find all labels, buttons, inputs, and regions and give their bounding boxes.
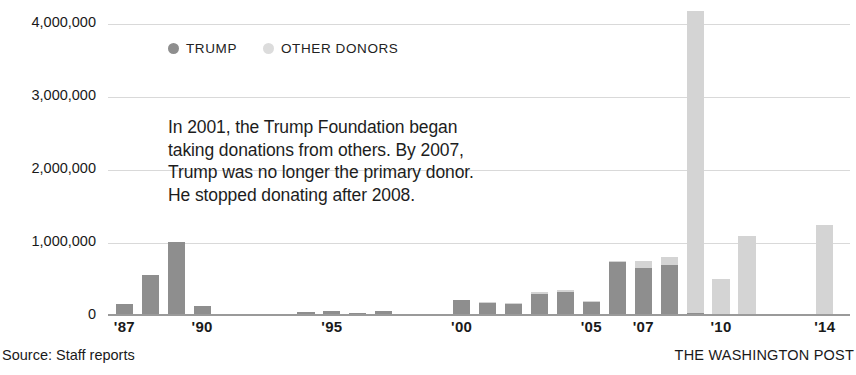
y-axis-tick-label: 1,000,000	[0, 233, 96, 249]
bar-segment-trump	[557, 292, 574, 316]
chart-container: 01,000,0002,000,0003,000,0004,000,000 '8…	[0, 0, 856, 375]
bar-segment-other-donors	[583, 301, 600, 302]
bar-segment-other-donors	[661, 257, 678, 265]
bar-segment-trump	[168, 242, 185, 316]
bar-segment-other-donors	[712, 279, 729, 316]
legend-item-trump: TRUMP	[168, 41, 237, 56]
dot-icon	[263, 43, 274, 54]
bar-segment-trump	[142, 275, 159, 316]
y-axis-tick-label: 4,000,000	[0, 14, 96, 30]
x-axis-baseline	[108, 314, 850, 316]
chart-footer: Source: Staff reports THE WASHINGTON POS…	[0, 347, 856, 375]
x-axis-tick-label: '87	[114, 318, 135, 335]
x-axis-tick-label: '14	[814, 318, 835, 335]
bar-segment-other-donors	[479, 302, 496, 303]
bar-segment-trump	[531, 294, 548, 316]
dot-icon	[168, 43, 179, 54]
chart-legend: TRUMP OTHER DONORS	[168, 41, 398, 56]
legend-label-trump: TRUMP	[186, 41, 237, 56]
x-axis-tick-label: '10	[710, 318, 731, 335]
legend-item-other-donors: OTHER DONORS	[263, 41, 398, 56]
bar-segment-trump	[609, 262, 626, 316]
bar-segment-trump	[661, 265, 678, 316]
x-axis-tick-label: '00	[451, 318, 472, 335]
bar-segment-other-donors	[505, 303, 522, 304]
gridline	[108, 24, 850, 25]
y-axis-tick-label: 3,000,000	[0, 87, 96, 103]
y-axis-tick-label: 2,000,000	[0, 160, 96, 176]
bar-segment-other-donors	[557, 290, 574, 292]
source-note: Source: Staff reports	[2, 347, 135, 363]
x-axis-tick-label: '07	[633, 318, 654, 335]
legend-label-other-donors: OTHER DONORS	[281, 41, 398, 56]
bar-segment-other-donors	[531, 292, 548, 294]
bar-segment-other-donors	[687, 11, 704, 313]
bar-segment-trump	[635, 268, 652, 316]
chart-annotation: In 2001, the Trump Foundation began taki…	[168, 116, 498, 206]
bar-segment-other-donors	[816, 225, 833, 316]
bar-segment-other-donors	[635, 261, 652, 268]
y-axis-tick-label: 0	[0, 306, 96, 322]
publication-credit: THE WASHINGTON POST	[675, 347, 854, 363]
x-axis-tick-label: '05	[581, 318, 602, 335]
bar-segment-other-donors	[609, 261, 626, 262]
bar-segment-other-donors	[738, 236, 755, 316]
x-axis-tick-label: '95	[321, 318, 342, 335]
gridline	[108, 97, 850, 98]
x-axis-tick-label: '90	[192, 318, 213, 335]
